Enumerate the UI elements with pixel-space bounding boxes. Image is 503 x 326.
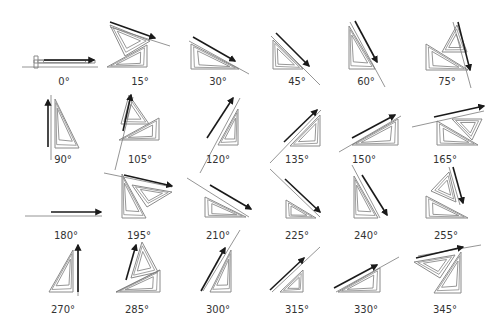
angle-label: 315° xyxy=(285,304,309,316)
angle-label: 30° xyxy=(209,76,227,88)
angle-label: 345° xyxy=(433,304,457,316)
reference-line xyxy=(270,169,320,217)
reference-line xyxy=(336,257,399,292)
angle-label: 45° xyxy=(288,76,306,88)
set-square-cutout xyxy=(56,259,70,286)
set-square-cutout xyxy=(57,108,72,141)
angle-label: 0° xyxy=(58,76,69,88)
angle-figure-180deg xyxy=(25,212,102,216)
figures-group xyxy=(22,21,484,296)
set-square-cutout xyxy=(198,51,230,67)
angle-label: 105° xyxy=(128,154,152,166)
set-square-cutout xyxy=(442,261,458,287)
angle-label: 225° xyxy=(285,230,309,242)
angle-label: 60° xyxy=(357,76,375,88)
angle-figure-285deg xyxy=(116,242,160,292)
angle-figure-15deg xyxy=(107,22,170,67)
angle-label: 120° xyxy=(206,154,230,166)
set-square-cutout xyxy=(225,118,236,139)
angle-figure-240deg xyxy=(352,165,387,218)
angle-label: 285° xyxy=(125,304,149,316)
set-square-cutout xyxy=(357,185,371,212)
set-square-cutout xyxy=(433,203,459,216)
angle-label: 180° xyxy=(54,230,78,242)
angle-label: 330° xyxy=(354,304,378,316)
set-square-outline xyxy=(431,172,456,202)
direction-arrow-icon xyxy=(352,115,395,138)
angle-figure-345deg xyxy=(414,245,481,293)
set-square-cutout xyxy=(347,275,374,289)
angle-figure-195deg xyxy=(104,173,172,218)
angle-figure-315deg xyxy=(270,247,320,292)
angle-label: 75° xyxy=(438,76,456,88)
angle-label: 240° xyxy=(354,230,378,242)
direction-arrow-icon xyxy=(362,175,387,215)
angle-label: 165° xyxy=(433,154,457,166)
angle-label: 255° xyxy=(434,230,458,242)
set-square-cutout xyxy=(217,259,229,285)
set-square-cutout xyxy=(128,125,152,137)
angle-figure-90deg xyxy=(48,95,79,160)
angle-figure-255deg xyxy=(426,167,468,218)
angle-label: 90° xyxy=(54,154,72,166)
reference-line xyxy=(187,178,249,217)
angle-figure-270deg xyxy=(49,245,78,296)
direction-arrow-icon xyxy=(416,247,463,258)
set-square-cutout xyxy=(125,277,153,290)
diagram-canvas xyxy=(0,0,503,326)
angle-figure-30deg xyxy=(189,37,249,74)
set-square-cutout xyxy=(361,126,392,142)
set-square-cutout xyxy=(212,204,237,215)
reference-line xyxy=(272,247,320,292)
angle-figure-150deg xyxy=(339,115,401,152)
angle-figure-330deg xyxy=(334,257,399,292)
direction-arrow-icon xyxy=(285,179,320,212)
direction-arrow-icon xyxy=(124,175,172,186)
angle-label: 195° xyxy=(127,230,151,242)
set-square-outline xyxy=(414,255,455,278)
reference-line xyxy=(352,165,380,218)
angle-label: 270° xyxy=(51,304,75,316)
set-square-cutout xyxy=(432,51,459,67)
reference-line xyxy=(104,173,172,187)
angle-figure-0deg xyxy=(22,56,98,68)
angle-label: 150° xyxy=(352,154,376,166)
angle-label: 210° xyxy=(206,230,230,242)
angle-label: 135° xyxy=(285,154,309,166)
angle-label: 300° xyxy=(206,304,230,316)
reference-line xyxy=(339,116,401,152)
angle-figure-210deg xyxy=(187,178,251,217)
angle-figure-225deg xyxy=(270,169,320,218)
angle-figure-165deg xyxy=(412,106,484,145)
angle-label: 15° xyxy=(131,76,149,88)
direction-arrow-icon xyxy=(434,106,484,117)
